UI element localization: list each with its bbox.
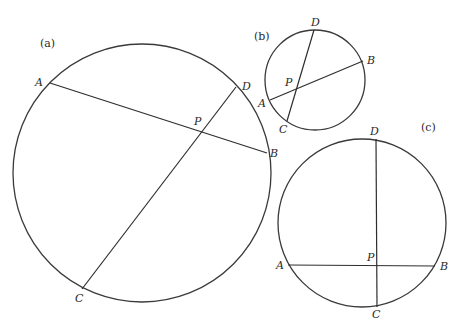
point-label-c-B: B — [439, 260, 448, 273]
chord-cd-c — [376, 139, 377, 307]
chord-cd-a — [82, 87, 236, 289]
chord-ab-c — [288, 265, 435, 266]
point-label-b-B: B — [366, 54, 375, 67]
chord-ab-a — [50, 83, 267, 153]
point-label-c-A: A — [275, 259, 284, 272]
point-label-a-A: A — [34, 76, 43, 89]
point-label-c-P: P — [366, 251, 375, 264]
point-label-a-D: D — [241, 80, 251, 93]
diagram-canvas: (a) A B C D P (b) A B C D P (c) A B C — [0, 0, 460, 329]
panel-b: (b) A B C D P — [254, 16, 375, 136]
circle-b — [265, 30, 365, 130]
point-label-b-P: P — [284, 76, 293, 89]
circle-a — [13, 44, 271, 302]
intersecting-chords-figure: (a) A B C D P (b) A B C D P (c) A B C — [0, 0, 460, 329]
point-label-b-C: C — [279, 123, 288, 136]
point-label-b-D: D — [310, 16, 320, 29]
point-label-a-B: B — [269, 147, 278, 160]
point-label-a-P: P — [193, 115, 202, 128]
point-label-c-C: C — [372, 308, 381, 321]
panel-a: (a) A B C D P — [13, 37, 278, 305]
panel-c: (c) A B C D P — [275, 121, 448, 321]
point-label-a-C: C — [75, 292, 84, 305]
panel-label-b: (b) — [254, 30, 270, 43]
chord-ab-b — [270, 61, 363, 100]
point-label-c-D: D — [369, 125, 379, 138]
point-label-b-A: A — [257, 97, 266, 110]
panel-label-c: (c) — [421, 121, 436, 134]
circle-c — [278, 139, 446, 307]
panel-label-a: (a) — [40, 37, 55, 50]
